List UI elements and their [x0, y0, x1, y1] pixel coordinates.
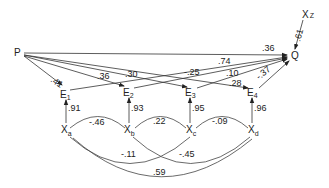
node-q: Q [291, 50, 299, 61]
node-xa: Xa [61, 124, 72, 137]
label-xd-e4: .96 [254, 103, 267, 113]
node-xz: XZ [302, 9, 315, 20]
label-e4-q: -.37 [254, 64, 272, 81]
label-p-e4: .28 [229, 78, 242, 88]
node-xc: Xc [186, 124, 197, 137]
label-xa-xc: -.11 [121, 149, 136, 159]
label-xb-xc: .22 [153, 116, 166, 126]
edge-e3-q [197, 59, 287, 88]
label-xa-xd: .59 [153, 167, 166, 177]
label-p-e2: .36 [97, 71, 110, 81]
label-e3-q: .10 [226, 68, 239, 78]
node-e4: E4 [247, 87, 258, 99]
label-xc-xd: -.09 [212, 116, 228, 126]
edge-p-q [24, 53, 287, 55]
node-e2: E2 [123, 87, 134, 99]
label-xa-e1: .91 [68, 103, 81, 113]
path-diagram: P Q XZ E1 E2 E3 E4 Xa Xb Xc Xd .36 .41 .… [0, 0, 329, 188]
label-e2-q: -.25 [184, 67, 200, 77]
node-e3: E3 [185, 87, 196, 99]
label-xb-xd: -.45 [179, 149, 195, 159]
label-xb-e2: .93 [131, 103, 144, 113]
label-e1-q: .74 [218, 56, 231, 66]
label-xa-xb: -.46 [89, 117, 105, 127]
label-xz-q: .61 [292, 28, 305, 43]
node-xd: Xd [248, 124, 259, 137]
label-p-q: .36 [262, 43, 275, 53]
node-p: P [14, 47, 21, 58]
node-xb: Xb [124, 124, 135, 137]
label-xc-e3: .95 [192, 103, 205, 113]
label-p-e3: .30 [125, 69, 138, 79]
node-e1: E1 [60, 89, 71, 101]
